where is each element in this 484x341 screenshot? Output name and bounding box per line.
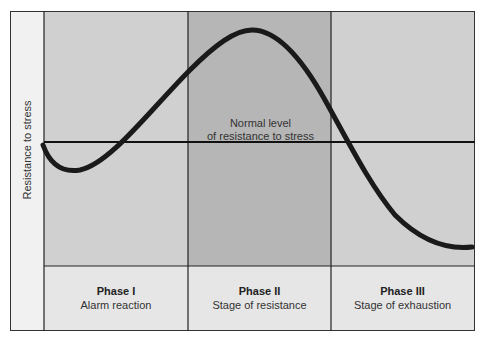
resistance-curve — [43, 30, 472, 248]
diagram-lines — [0, 0, 484, 341]
